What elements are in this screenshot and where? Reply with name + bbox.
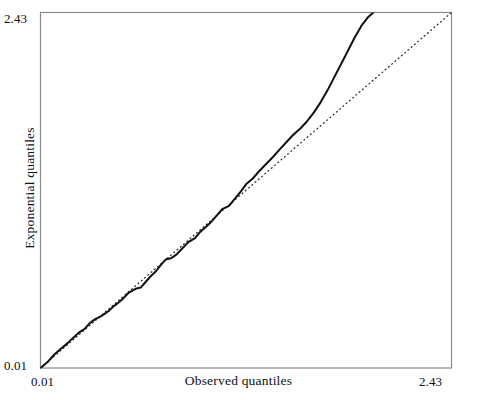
chart-canvas — [0, 0, 477, 400]
y-axis-min-label: 0.01 — [4, 358, 27, 374]
qq-data-curve — [41, 13, 374, 369]
y-axis-title: Exponential quantiles — [22, 98, 38, 278]
x-axis-title: Observed quantiles — [0, 373, 477, 389]
qq-plot-figure: 2.43 0.01 0.01 2.43 Observed quantiles E… — [0, 0, 477, 400]
y-axis-max-label: 2.43 — [4, 11, 27, 27]
